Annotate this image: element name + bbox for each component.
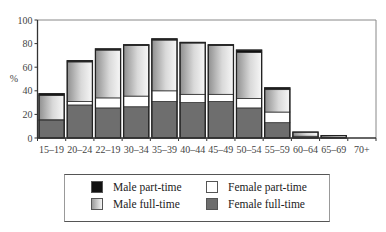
y-axis: 020406080100 [18,15,38,144]
bar-group [293,132,318,138]
bar-segment [265,112,290,123]
y-axis-label: % [10,73,18,84]
bar-segment [124,96,149,107]
bar-group [67,61,92,138]
legend-item-male-part-time: Male part-time [91,181,182,193]
bar-segment [152,91,177,102]
bar-segment [124,45,149,96]
y-tick-label: 80 [23,38,33,49]
bar-group [95,49,120,138]
bar-segment [67,101,92,105]
y-tick-label: 0 [28,133,33,144]
female-full-time-swatch-icon [206,198,218,210]
legend-item-male-full-time: Male full-time [91,198,180,210]
bar-segment [180,43,205,94]
bar-segment [265,123,290,138]
y-tick-label: 100 [18,15,33,26]
legend-item-female-part-time: Female part-time [206,181,307,193]
bar-segment [124,107,149,138]
legend-label: Female full-time [228,198,305,210]
y-tick-label: 20 [23,109,33,120]
x-tick-label: 35–39 [152,144,177,155]
x-tick-label: 60–64 [293,144,318,155]
bar-segment [95,98,120,108]
legend: Male part-time Female part-time Male ful… [64,174,330,222]
x-axis: 15–1920–2422–1930–3435–3940–4445–4950–54… [38,138,377,155]
x-tick-label: 45–49 [208,144,233,155]
bar-segment [152,101,177,138]
bar-segment [236,108,261,138]
bar-segment [236,52,261,98]
bar-segment [95,50,120,98]
bar-group [39,94,64,138]
bar-segment [236,98,261,107]
bar-group [124,45,149,138]
x-tick-label: 70+ [354,144,370,155]
legend-item-female-full-time: Female full-time [206,198,305,210]
bar-segment [39,120,64,138]
male-part-time-swatch-icon [91,181,103,193]
bar-segment [208,94,233,101]
legend-label: Female part-time [228,181,307,193]
legend-label: Male full-time [113,198,180,210]
bar-segment [265,90,290,112]
bar-segment [180,94,205,102]
x-tick-label: 22–19 [96,144,121,155]
x-tick-label: 65–69 [321,144,346,155]
male-full-time-swatch-icon [91,198,103,210]
bar-segment [67,105,92,138]
x-tick-label: 50–54 [237,144,262,155]
bar-segment [95,108,120,138]
bar-segment [208,45,233,94]
bar-group [236,50,261,138]
bar-segment [67,62,92,102]
bar-segment [208,101,233,138]
x-tick-label: 40–44 [180,144,205,155]
bar-segment [152,40,177,91]
y-tick-label: 40 [23,85,33,96]
bar-group [265,88,290,138]
bar-group [152,39,177,138]
bar-segment [39,96,64,120]
female-part-time-swatch-icon [206,181,218,193]
bar-segment [180,103,205,138]
bar-group [180,42,205,138]
bars [39,39,346,138]
x-tick-label: 20–24 [67,144,92,155]
legend-label: Male part-time [113,181,182,193]
x-tick-label: 15–19 [39,144,64,155]
bar-group [208,45,233,138]
y-tick-label: 60 [23,62,33,73]
x-tick-label: 55–59 [265,144,290,155]
x-tick-label: 30–34 [124,144,149,155]
